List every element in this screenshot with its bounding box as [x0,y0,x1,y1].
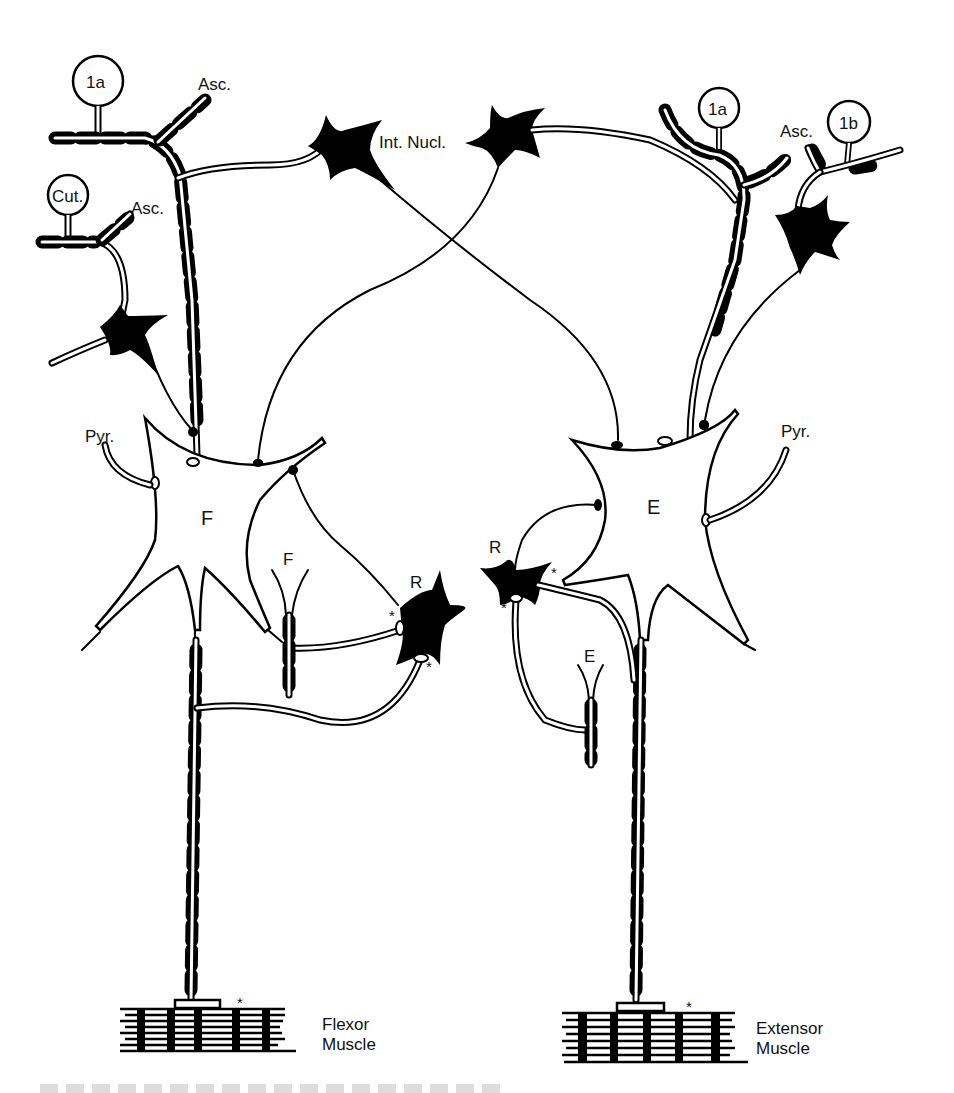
neural-circuit-diagram: 1a Asc. Cut. Asc. Int. Nucl. [0,0,954,1093]
afferent-1a-left-label: 1a [86,73,105,92]
asterisk-flexor-muscle: * [237,994,243,1011]
afferent-cut-label: Cut. [52,187,83,206]
pyr-right-label: Pyr. [781,422,810,441]
extensor-motoneuron-soma [563,410,748,644]
extensor-motoneuron-label: E [647,496,660,518]
flexor-muscle: * Flexor Muscle [120,994,376,1054]
asterisk-renshaw-right-2: * [501,599,507,616]
interneuron-1b [775,195,850,275]
flexor-endplate [175,1000,220,1008]
recurrent-flexor-label: F [283,550,293,569]
interneurons-int-nucl: Int. Nucl. [253,105,735,467]
flexor-muscle-fibers [120,1008,296,1052]
renshaw-left-soma [396,570,465,665]
afferent-1b-label: 1b [839,114,858,133]
extensor-muscle: * Extensor Muscle [562,998,823,1063]
asc-left-mid-label: Asc. [131,199,164,218]
afferent-1a-left: 1a Asc. [55,56,325,455]
extensor-endplate [617,1003,664,1011]
renshaw-right-label: R [489,538,501,557]
int-nucl-label: Int. Nucl. [379,133,446,152]
flexor-muscle-label-2: Muscle [322,1035,376,1054]
afferent-cut: Cut. Asc. [42,175,198,437]
interneuron-left-cut [100,305,168,375]
asc-left-top-label: Asc. [198,75,231,94]
recurrent-extensor-label: E [584,647,595,666]
asc-right-label: Asc. [780,122,813,141]
cropped-caption [40,1084,500,1093]
extensor-motoneuron: E Pyr. [563,410,810,1000]
interneuron-int-nucl-right [465,105,545,168]
afferent-1a-right: 1a [665,88,787,440]
renshaw-left-label: R [410,573,422,592]
afferent-1a-right-label: 1a [708,100,727,119]
flexor-muscle-label-1: Flexor [322,1015,370,1034]
asterisk-renshaw-left-1: * [389,607,395,624]
asterisk-renshaw-right-1: * [551,564,557,581]
extensor-muscle-label-1: Extensor [756,1019,823,1038]
pyr-left-label: Pyr. [85,427,114,446]
asterisk-extensor-muscle: * [686,998,692,1015]
extensor-muscle-fibers [562,1012,748,1063]
extensor-muscle-label-2: Muscle [756,1039,810,1058]
interneuron-int-nucl-left [308,115,395,190]
flexor-motoneuron-label: F [201,507,213,529]
